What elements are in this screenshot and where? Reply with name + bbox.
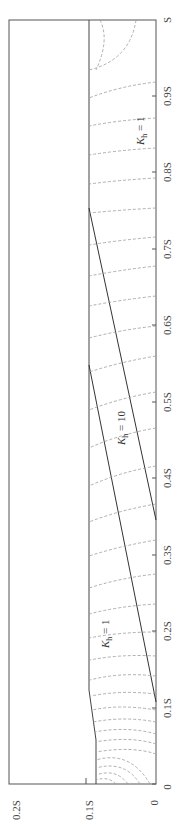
y-tick-label-0-1s: 0.1S [83, 800, 95, 820]
region-label-kh1-left: Kh = 1 [99, 619, 114, 649]
x-axis-ticks [152, 96, 156, 784]
upper-interface-line [89, 208, 156, 520]
tick-label-0-9s: 0.9S [161, 86, 173, 106]
x-axis-labels: 0 0.1S 0.2S 0.3S 0.4S 0.5S 0.6S 0.7S 0.8… [161, 17, 173, 790]
tick-label-0-4s: 0.4S [161, 468, 173, 488]
y-axis-labels: 0 0.1S 0.2S [10, 800, 160, 820]
tick-label-0-1s: 0.1S [161, 698, 173, 718]
tick-label-0-8s: 0.8S [161, 162, 173, 182]
y-tick-label-0: 0 [148, 800, 160, 806]
tick-label-0-5s: 0.5S [161, 392, 173, 412]
tick-label-s: S [161, 17, 173, 23]
region-label-kh1-right: Kh = 1 [134, 116, 149, 146]
tick-label-0-2s: 0.2S [161, 621, 173, 641]
ground-surface-line [89, 20, 96, 784]
flow-net-figure: 0 0.1S 0.2S 0.3S 0.4S 0.5S 0.6S 0.7S 0.8… [0, 0, 180, 830]
tick-label-0: 0 [161, 784, 173, 790]
tick-label-0-7s: 0.7S [161, 239, 173, 259]
tick-label-0-6s: 0.6S [161, 315, 173, 335]
region-label-kh10: Kh = 10 [115, 410, 130, 446]
y-tick-label-0-2s: 0.2S [10, 800, 22, 820]
tick-label-0-3s: 0.3S [161, 545, 173, 565]
